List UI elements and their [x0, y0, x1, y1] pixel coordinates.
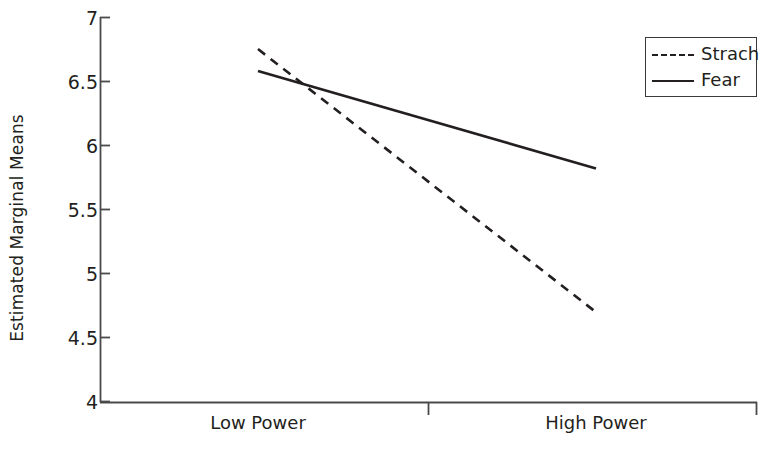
legend-dashed-line-icon — [652, 47, 694, 61]
legend-label-fear: Fear — [701, 71, 740, 89]
legend: Strach Fear — [645, 37, 757, 97]
legend-label-strach: Strach — [701, 45, 759, 63]
legend-item-fear: Fear — [652, 67, 748, 93]
y-axis-ticks — [100, 18, 110, 402]
series-line-strach — [258, 49, 596, 312]
x-tick-label-high-power: High Power — [545, 412, 647, 433]
legend-solid-line-icon — [652, 73, 694, 87]
x-tick-label-low-power: Low Power — [210, 412, 306, 433]
series-line-fear — [258, 71, 596, 169]
line-chart: Estimated Marginal Means 4 4.5 5 5.5 6 6… — [0, 0, 768, 456]
legend-item-strach: Strach — [652, 41, 748, 67]
